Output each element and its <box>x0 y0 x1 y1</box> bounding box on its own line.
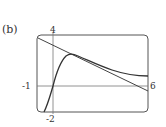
window-frame <box>37 35 148 112</box>
tangent-line <box>38 38 148 91</box>
graph-plot <box>0 0 166 127</box>
